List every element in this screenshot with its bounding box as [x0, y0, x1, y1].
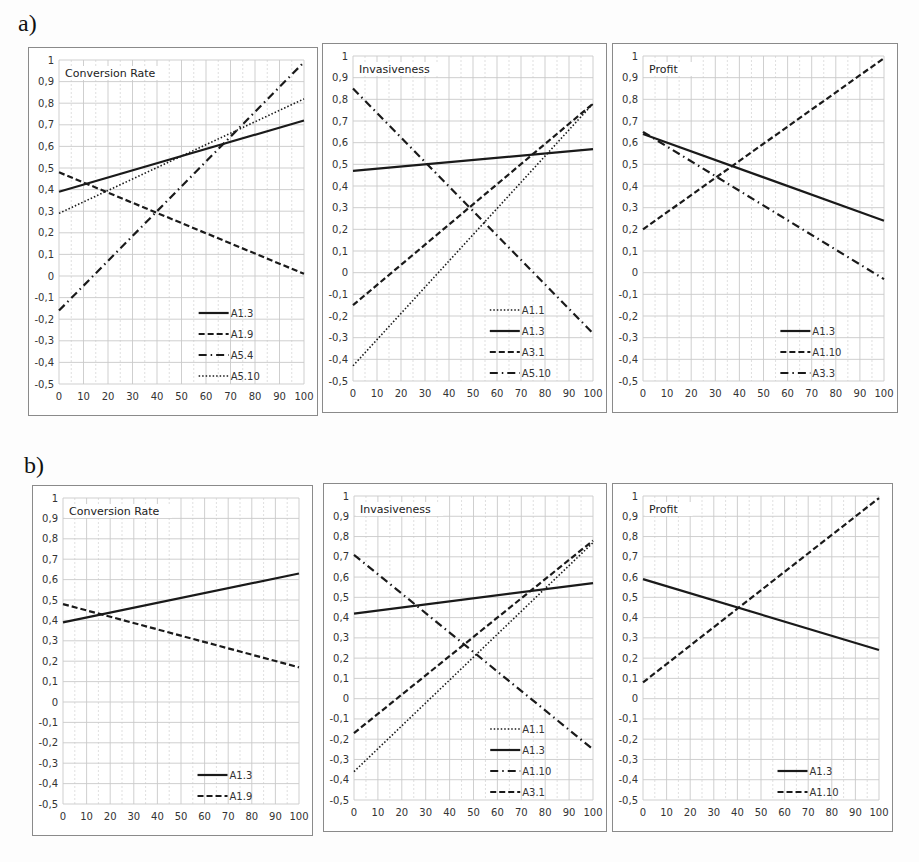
legend-label: A1.3	[522, 745, 545, 756]
y-tick-label: -0,1	[618, 289, 638, 300]
row-label-b: b)	[24, 452, 44, 479]
y-tick-label: 0	[342, 267, 348, 278]
x-tick-label: 30	[709, 388, 722, 399]
chart-panel-b2: 10,90,80,70,60,50,40,30,20,10-0,1-0,2-0,…	[323, 483, 607, 832]
y-tick-label: 0,5	[38, 163, 54, 174]
y-tick-label: 0,9	[38, 76, 54, 87]
x-tick-label: 90	[273, 391, 286, 402]
grid	[643, 496, 879, 800]
y-tick-label: 0,5	[333, 592, 349, 603]
y-tick-label: 0,8	[38, 98, 54, 109]
row-label-a: a)	[18, 10, 37, 37]
y-tick-label: 1	[632, 491, 638, 502]
y-tick-label: 0	[632, 267, 638, 278]
y-tick-label: 0,4	[42, 615, 58, 626]
y-tick-label: 0,8	[622, 531, 638, 542]
x-tick-label: 40	[443, 807, 456, 818]
y-tick-label: -0,4	[328, 354, 348, 365]
x-tick-label: 30	[126, 391, 139, 402]
y-tick-label: 0,8	[332, 94, 348, 105]
x-tick-label: 10	[80, 811, 93, 822]
y-tick-label: 0,6	[332, 137, 348, 148]
x-tick-label: 20	[685, 388, 698, 399]
y-tick-label: 0,9	[622, 511, 638, 522]
x-tick-label: 50	[175, 391, 188, 402]
x-tick-label: 70	[222, 811, 235, 822]
x-tick-label: 20	[684, 807, 697, 818]
chart-panel-b3: 10,90,80,70,60,50,40,30,20,10-0,1-0,2-0,…	[612, 483, 893, 832]
y-tick-label: 0	[632, 693, 638, 704]
x-tick-label: 100	[874, 388, 893, 399]
y-tick-label: 0,1	[622, 673, 638, 684]
x-tick-label: 50	[175, 811, 188, 822]
x-tick-label: 40	[443, 388, 456, 399]
x-tick-label: 20	[395, 388, 408, 399]
y-tick-label: 0,7	[622, 116, 638, 127]
x-tick-label: 60	[781, 388, 794, 399]
x-tick-label: 10	[371, 388, 384, 399]
y-tick-label: 0,3	[622, 632, 638, 643]
x-tick-label: 50	[757, 388, 770, 399]
legend-label: A1.3	[522, 326, 545, 337]
y-tick-label: 0,9	[333, 511, 349, 522]
y-tick-label: 0,3	[622, 202, 638, 213]
x-tick-label: 30	[419, 807, 432, 818]
x-tick-label: 70	[224, 391, 237, 402]
x-tick-label: 90	[269, 811, 282, 822]
chart-title: Conversion Rate	[65, 67, 156, 80]
x-tick-label: 60	[491, 388, 504, 399]
y-tick-label: 0,1	[38, 249, 54, 260]
y-tick-label: 0,3	[42, 635, 58, 646]
legend-label: A1.10	[810, 787, 839, 798]
y-tick-label: 0,9	[622, 72, 638, 83]
y-tick-label: -0,4	[34, 357, 54, 368]
y-tick-label: -0,2	[328, 311, 348, 322]
y-tick-label: 0	[52, 697, 58, 708]
y-tick-label: 0,9	[42, 513, 58, 524]
y-tick-label: -0,4	[329, 774, 349, 785]
x-tick-label: 0	[351, 807, 357, 818]
y-tick-label: 1	[48, 55, 54, 66]
x-tick-label: 10	[372, 807, 385, 818]
y-tick-label: 0,2	[622, 653, 638, 664]
y-tick-label: 0,3	[38, 206, 54, 217]
y-tick-label: 1	[52, 493, 58, 504]
legend-label: A1.3	[231, 308, 254, 319]
x-tick-label: 20	[395, 807, 408, 818]
y-tick-label: -0,3	[34, 335, 54, 346]
grid	[353, 56, 593, 381]
y-tick-label: 0,5	[42, 595, 58, 606]
legend-label: A3.3	[812, 368, 835, 379]
chart-panel-a1: 10,90,80,70,60,50,40,30,20,10-0,1-0,2-0,…	[28, 47, 318, 416]
y-tick-label: 1	[343, 491, 349, 502]
y-tick-label: -0,3	[329, 754, 349, 765]
x-tick-label: 80	[829, 388, 842, 399]
y-tick-label: 0,1	[332, 246, 348, 257]
y-tick-label: 0,6	[333, 572, 349, 583]
x-tick-label: 40	[151, 391, 164, 402]
y-tick-label: 0,7	[333, 551, 349, 562]
y-tick-label: 0,2	[42, 656, 58, 667]
x-tick-label: 40	[151, 811, 164, 822]
y-tick-label: 0,2	[38, 227, 54, 238]
x-tick-label: 60	[778, 807, 791, 818]
x-tick-label: 0	[56, 391, 62, 402]
y-tick-label: 0,1	[622, 246, 638, 257]
y-tick-label: -0,2	[34, 314, 54, 325]
x-tick-label: 10	[660, 807, 673, 818]
grid	[63, 498, 299, 804]
x-tick-label: 70	[515, 388, 528, 399]
y-tick-label: -0,2	[618, 311, 638, 322]
chart-panel-b1: 10,90,80,70,60,50,40,30,20,10-0,1-0,2-0,…	[32, 485, 313, 836]
chart-title: Profit	[649, 503, 678, 516]
y-tick-label: 0,1	[333, 673, 349, 684]
x-tick-label: 100	[289, 811, 308, 822]
y-tick-label: 0,4	[622, 612, 638, 623]
x-tick-label: 30	[419, 388, 432, 399]
legend-label: A3.1	[522, 787, 545, 798]
y-tick-label: -0,5	[38, 799, 58, 810]
y-tick-label: 0,5	[622, 159, 638, 170]
y-tick-label: 0,7	[42, 554, 58, 565]
x-tick-label: 80	[249, 391, 262, 402]
y-tick-label: -0,3	[618, 754, 638, 765]
